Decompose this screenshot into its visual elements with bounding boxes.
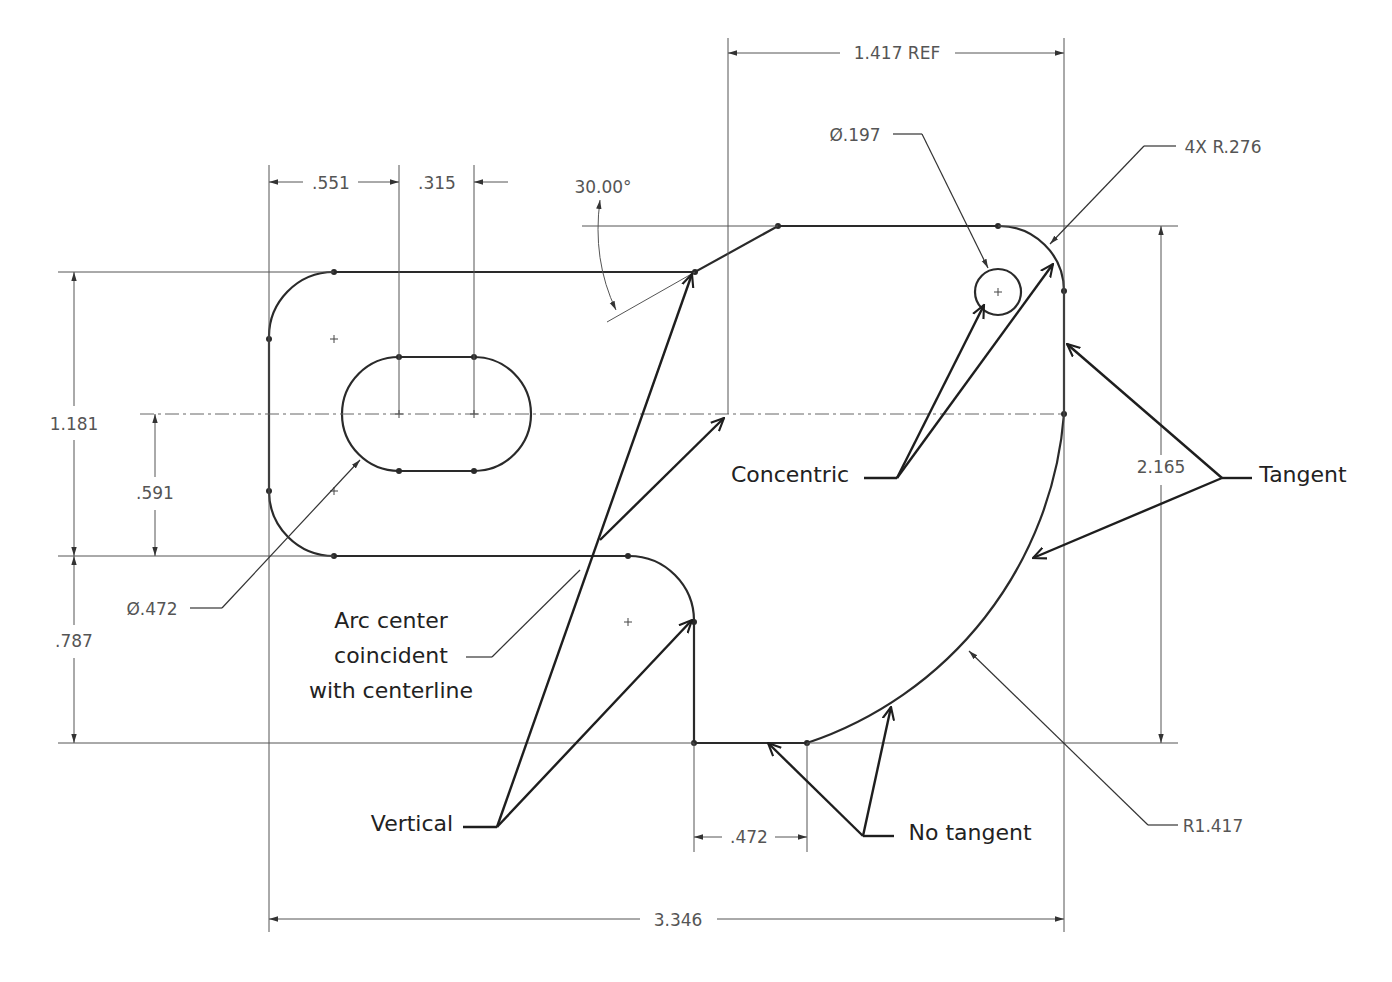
center-marks bbox=[330, 288, 1002, 626]
dim-left-height: 1.181 bbox=[50, 272, 99, 556]
dim-overall-width: 3.346 bbox=[269, 910, 1064, 930]
svg-text:.315: .315 bbox=[418, 173, 456, 193]
svg-text:R1.417: R1.417 bbox=[1183, 816, 1243, 836]
svg-text:No tangent: No tangent bbox=[908, 820, 1031, 845]
annotation-no-tangent: No tangent bbox=[768, 707, 1032, 845]
svg-text:Vertical: Vertical bbox=[371, 811, 453, 836]
svg-text:Tangent: Tangent bbox=[1258, 462, 1347, 487]
dim-angle: 30.00° bbox=[574, 177, 631, 310]
svg-text:3.346: 3.346 bbox=[654, 910, 703, 930]
svg-text:Ø.197: Ø.197 bbox=[829, 125, 880, 145]
dim-corner-radius: 4X R.276 bbox=[1050, 137, 1261, 244]
annotation-tangent: Tangent bbox=[1033, 344, 1347, 558]
svg-text:with centerline: with centerline bbox=[309, 678, 473, 703]
dim-center-offset: .591 bbox=[136, 414, 174, 556]
svg-text:Arc center: Arc center bbox=[334, 608, 448, 633]
dim-lower-height: .787 bbox=[55, 556, 93, 743]
technical-drawing: 1.417 REF .551 .315 30.00° Ø.197 4X R.27… bbox=[0, 0, 1392, 982]
annotation-arc-center: Arc center coincident with centerline bbox=[309, 418, 724, 703]
svg-text:.591: .591 bbox=[136, 483, 174, 503]
dim-overall-height: 2.165 bbox=[1137, 226, 1186, 743]
svg-text:Concentric: Concentric bbox=[731, 462, 849, 487]
svg-text:.551: .551 bbox=[312, 173, 350, 193]
annotation-concentric: Concentric bbox=[731, 264, 1053, 487]
svg-text:1.417 REF: 1.417 REF bbox=[854, 43, 940, 63]
dim-slot-length: .315 bbox=[418, 173, 508, 193]
svg-text:4X R.276: 4X R.276 bbox=[1185, 137, 1262, 157]
svg-text:.787: .787 bbox=[55, 631, 93, 651]
svg-text:Ø.472: Ø.472 bbox=[126, 599, 177, 619]
svg-text:coincident: coincident bbox=[334, 643, 448, 668]
svg-text:.472: .472 bbox=[730, 827, 768, 847]
svg-text:2.165: 2.165 bbox=[1137, 457, 1186, 477]
dim-bottom-flat: .472 bbox=[694, 827, 807, 847]
dim-ref-width: 1.417 REF bbox=[728, 43, 1064, 63]
dim-hole-diameter: Ø.197 bbox=[829, 125, 988, 268]
svg-text:1.181: 1.181 bbox=[50, 414, 99, 434]
dim-slot-offset: .551 bbox=[269, 173, 399, 193]
svg-text:30.00°: 30.00° bbox=[574, 177, 631, 197]
